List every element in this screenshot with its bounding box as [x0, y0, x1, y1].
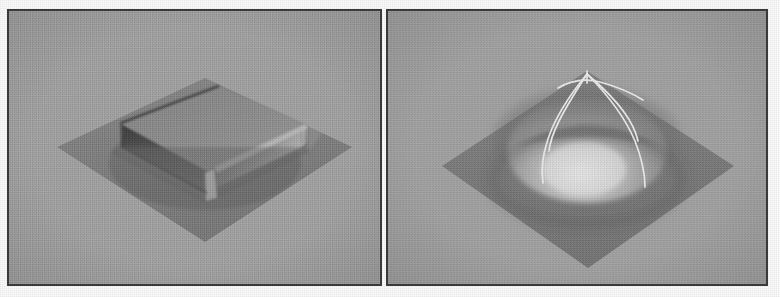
- gaussian-surface-svg: [388, 11, 766, 284]
- plateau-surface-plot: [9, 11, 380, 284]
- panel-right-gaussian-surface: 3D surface plot of a smooth radial Gauss…: [386, 9, 768, 286]
- plateau-surface-svg: [9, 11, 380, 284]
- panel-left-plateau-surface: 3D surface plot of a rectangular plateau…: [7, 9, 382, 286]
- gaussian-surface-plot: [388, 11, 766, 284]
- figure-two-surface-plots: 3D surface plot of a rectangular plateau…: [0, 0, 780, 297]
- plot-vignette: [388, 11, 766, 284]
- plot-vignette: [9, 11, 380, 284]
